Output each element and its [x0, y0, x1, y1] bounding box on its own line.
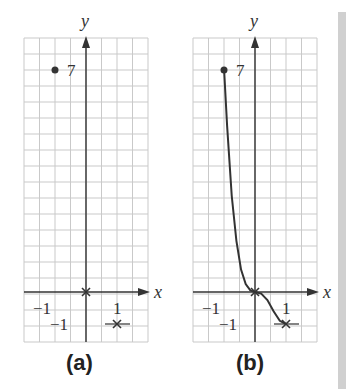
- graph-a: y x 7 −1 1 −1: [0, 0, 170, 350]
- graph-b: y x 7 −1 1 −1: [169, 0, 339, 350]
- caption-b: (b): [236, 350, 264, 376]
- tick-label-x-neg1-a: −1: [33, 299, 51, 318]
- page-edge: [338, 12, 346, 389]
- tick-label-7-b: 7: [236, 61, 245, 80]
- x-axis-label-a: x: [153, 282, 162, 302]
- tick-label-y-neg1-b: −1: [219, 315, 237, 334]
- point-dot-a: [52, 67, 59, 74]
- caption-a: (a): [66, 350, 93, 376]
- y-axis-label-a: y: [79, 11, 89, 31]
- y-axis-label-b: y: [248, 11, 258, 31]
- tick-label-x-1-a: 1: [113, 299, 122, 318]
- tick-label-x-1-b: 1: [282, 299, 291, 318]
- tick-label-x-neg1-b: −1: [202, 299, 220, 318]
- tick-label-7-a: 7: [67, 61, 76, 80]
- tick-label-y-neg1-a: −1: [50, 315, 68, 334]
- point-dot-b: [221, 67, 228, 74]
- x-axis-label-b: x: [322, 282, 331, 302]
